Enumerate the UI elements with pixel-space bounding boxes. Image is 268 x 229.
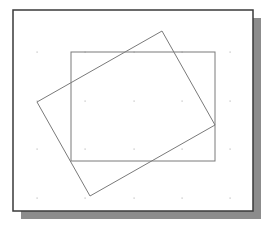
- drawing-frame: [13, 10, 253, 211]
- grid-dot: [230, 52, 231, 53]
- grid-dot: [134, 101, 135, 102]
- grid-dot: [37, 52, 38, 53]
- grid-dot: [134, 149, 135, 150]
- grid-dot: [134, 198, 135, 199]
- grid-dot: [230, 149, 231, 150]
- grid-dot: [85, 198, 86, 199]
- diagram-viewport: [0, 0, 268, 229]
- grid-dot: [182, 149, 183, 150]
- grid-dot: [182, 198, 183, 199]
- drawing-canvas: [0, 0, 268, 229]
- grid-dot: [230, 101, 231, 102]
- grid-dot: [37, 198, 38, 199]
- grid-dot: [37, 149, 38, 150]
- grid-dot: [230, 198, 231, 199]
- grid-dot: [85, 149, 86, 150]
- grid-dot: [182, 101, 183, 102]
- grid-dot: [85, 101, 86, 102]
